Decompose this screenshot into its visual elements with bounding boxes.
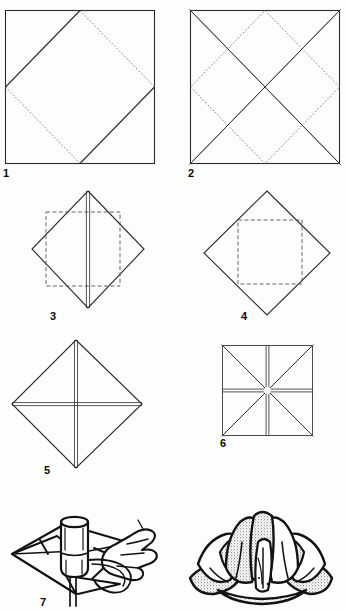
- step7-glass-cylinder: [61, 517, 88, 577]
- step-4-number: 4: [241, 311, 247, 322]
- step-5-number: 5: [44, 465, 50, 476]
- step6-center-highlight: [264, 387, 271, 394]
- step3-diamond-outline: [32, 191, 144, 308]
- finished-lotus-panel: [180, 498, 345, 611]
- step1-dotted-fold-upper-right: [80, 11, 155, 88]
- step-3-number: 3: [50, 311, 56, 322]
- instruction-sheet: 1 2: [0, 0, 345, 611]
- step-6-number: 6: [220, 438, 226, 449]
- step5-vertical-double-fold: [75, 340, 78, 468]
- step-7-panel: 7: [2, 498, 177, 611]
- step-2-number: 2: [188, 168, 194, 179]
- lotus-center: [255, 539, 271, 592]
- step-2-panel: 2: [186, 4, 345, 174]
- step-4-panel: 4: [197, 186, 345, 331]
- step5-horizontal-double-fold: [12, 403, 142, 406]
- step3-vertical-double-fold: [86, 191, 89, 308]
- step-1-panel: 1: [0, 4, 165, 174]
- step-1-number: 1: [3, 168, 9, 179]
- step-7-number: 7: [40, 597, 46, 608]
- step1-dotted-fold-lower-left: [6, 87, 81, 164]
- step4-inner-dashed-square: [238, 220, 302, 284]
- step-5-panel: 5: [2, 334, 167, 484]
- step5-diamond-outline: [12, 340, 142, 468]
- step1-solid-fold-upper-left: [6, 11, 81, 88]
- step-6-panel: 6: [205, 334, 345, 484]
- step1-solid-fold-lower-right: [80, 87, 155, 164]
- step4-diamond-outline: [204, 191, 330, 315]
- step-3-panel: 3: [26, 186, 176, 331]
- step1-outer-square: [6, 11, 155, 164]
